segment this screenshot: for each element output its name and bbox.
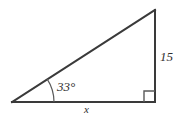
base-side-label-x: x — [84, 104, 89, 115]
right-angle-marker-icon — [144, 91, 155, 102]
angle-label-33-degrees: 33° — [57, 80, 75, 93]
angle-arc-icon — [47, 79, 54, 102]
vertical-side-label-15: 15 — [160, 50, 173, 63]
hypotenuse-line — [12, 10, 155, 102]
right-triangle-diagram — [0, 0, 179, 119]
geometry-figure: 33° 15 x — [0, 0, 179, 119]
